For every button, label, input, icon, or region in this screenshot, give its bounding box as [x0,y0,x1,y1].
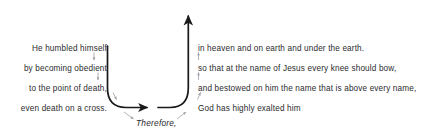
pivot-word: Therefore, [136,118,177,128]
ascent-line-4: God has highly exalted him [198,104,301,114]
descent-line-4: even death on a cross. [21,104,107,114]
descent-arc-path [108,46,148,108]
descent-line-3: to the point of death, [29,84,107,94]
descent-line-1: He humbled himself [32,44,107,54]
descent-connector-arrow-3 [113,93,117,100]
ascent-line-2: so that at the name of Jesus every knee … [198,64,396,74]
descent-line-2: by becoming obedient [24,64,107,74]
ascent-line-3: and bestowed on him the name that is abo… [198,84,416,94]
ascent-arc-path [158,16,188,108]
arc-diagram-canvas: He humbled himself by becoming obedient … [0,0,429,133]
ascent-line-1: in heaven and on earth and under the ear… [198,44,364,54]
pivot-outbound-arrow [177,112,186,119]
pivot-inbound-arrow [124,112,134,119]
